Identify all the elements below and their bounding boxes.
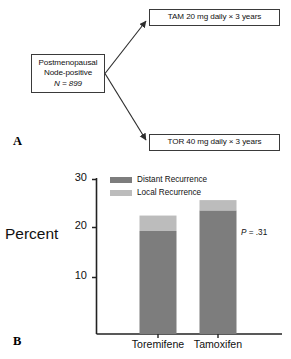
legend-label-distant-recurrence: Distant Recurrence <box>137 175 207 184</box>
tor-arm-label: TOR 40 mg daily × 3 years <box>168 137 262 148</box>
legend-label-local-recurrence: Local Recurrence <box>137 188 201 197</box>
source-line-1: Postmenopausal <box>39 58 98 69</box>
legend-item-local-recurrence: Local Recurrence <box>110 187 207 198</box>
panel-b-bar-chart: 30 20 10 Percent Toremifene Tamoxifen Di… <box>0 168 291 359</box>
panel-letter-a: A <box>13 134 22 149</box>
y-axis-tick-label-20: 20 <box>65 219 87 231</box>
p-value-annotation: P = .31 <box>241 228 267 237</box>
arrow-to-tor <box>105 74 146 141</box>
flow-box-toremifene-arm: TOR 40 mg daily × 3 years <box>149 134 280 151</box>
y-axis-tick-label-10: 10 <box>65 269 87 281</box>
p-value-text: = .31 <box>246 228 267 237</box>
bar-toremifene-distant-recurrence <box>140 231 177 334</box>
bars-group <box>140 200 237 334</box>
bar-tamoxifen-local-recurrence <box>200 200 237 210</box>
bar-toremifene-local-recurrence <box>140 216 177 231</box>
bar-tamoxifen-distant-recurrence <box>200 210 237 334</box>
panel-letter-b: B <box>13 334 21 349</box>
panel-a-flow-diagram: Postmenopausal Node-positive N = 899 TAM… <box>0 0 291 168</box>
flow-box-tamoxifen-arm: TAM 20 mg daily × 3 years <box>149 9 280 26</box>
source-line-2: Node-positive <box>44 68 92 79</box>
y-axis-title: Percent <box>5 225 58 243</box>
legend-swatch-local-recurrence <box>110 190 132 196</box>
chart-legend: Distant Recurrence Local Recurrence <box>110 174 207 200</box>
flow-box-source-population: Postmenopausal Node-positive N = 899 <box>31 54 105 93</box>
tam-arm-label: TAM 20 mg daily × 3 years <box>168 12 261 23</box>
legend-swatch-distant-recurrence <box>110 177 132 183</box>
source-sample-size: N = 899 <box>54 79 82 90</box>
figure: Postmenopausal Node-positive N = 899 TAM… <box>0 0 291 359</box>
arrow-to-tam <box>105 21 146 74</box>
y-axis-tick-label-30: 30 <box>65 171 87 183</box>
legend-item-distant-recurrence: Distant Recurrence <box>110 174 207 185</box>
x-axis-category-label-tamoxifen: Tamoxifen <box>178 338 258 350</box>
